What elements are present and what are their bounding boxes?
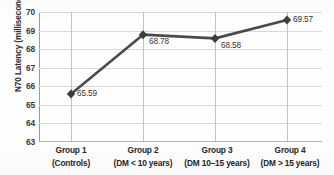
y-tick-label: 70 bbox=[1, 7, 35, 17]
plot-area: 65.59 68.78 68.58 69.57 bbox=[39, 12, 322, 141]
x-category-line2: (DM 10–15 years) bbox=[179, 157, 255, 170]
x-category-line1: Group 1 bbox=[56, 145, 87, 155]
series-line bbox=[71, 20, 287, 94]
x-category-line1: Group 2 bbox=[128, 145, 159, 155]
data-point-marker bbox=[211, 34, 219, 43]
y-tick-label: 65 bbox=[1, 100, 35, 110]
x-category-line1: Group 4 bbox=[275, 145, 306, 155]
data-label: 68.78 bbox=[149, 37, 169, 46]
x-category-group-2: Group 2 (DM < 10 years) bbox=[107, 144, 179, 169]
y-tick-label: 66 bbox=[1, 81, 35, 91]
y-tick-label: 68 bbox=[1, 44, 35, 54]
y-tick-label: 64 bbox=[1, 118, 35, 128]
series-n70-latency bbox=[39, 12, 322, 141]
x-axis-category-labels: Group 1 (Controls) Group 2 (DM < 10 year… bbox=[39, 144, 322, 175]
x-category-line2: (DM < 10 years) bbox=[107, 157, 179, 170]
x-axis-line bbox=[39, 141, 322, 142]
y-axis-tick-labels: 70 69 68 67 66 65 64 63 bbox=[0, 12, 35, 142]
x-category-line2: (DM > 15 years) bbox=[253, 157, 327, 170]
y-tick-label: 63 bbox=[1, 137, 35, 147]
data-point-marker bbox=[283, 16, 291, 25]
y-tick-label: 69 bbox=[1, 26, 35, 36]
x-category-group-1: Group 1 (Controls) bbox=[35, 144, 107, 169]
line-chart: N70 Latency (milliseconds) 70 69 68 67 6… bbox=[0, 0, 334, 175]
data-label: 69.57 bbox=[293, 15, 313, 24]
data-label: 68.58 bbox=[221, 41, 241, 50]
y-tick-label: 67 bbox=[1, 63, 35, 73]
x-category-line1: Group 3 bbox=[202, 145, 233, 155]
x-category-group-4: Group 4 (DM > 15 years) bbox=[253, 144, 327, 169]
x-category-group-3: Group 3 (DM 10–15 years) bbox=[179, 144, 255, 169]
x-category-line2: (Controls) bbox=[35, 157, 107, 170]
data-label: 65.59 bbox=[77, 89, 97, 98]
